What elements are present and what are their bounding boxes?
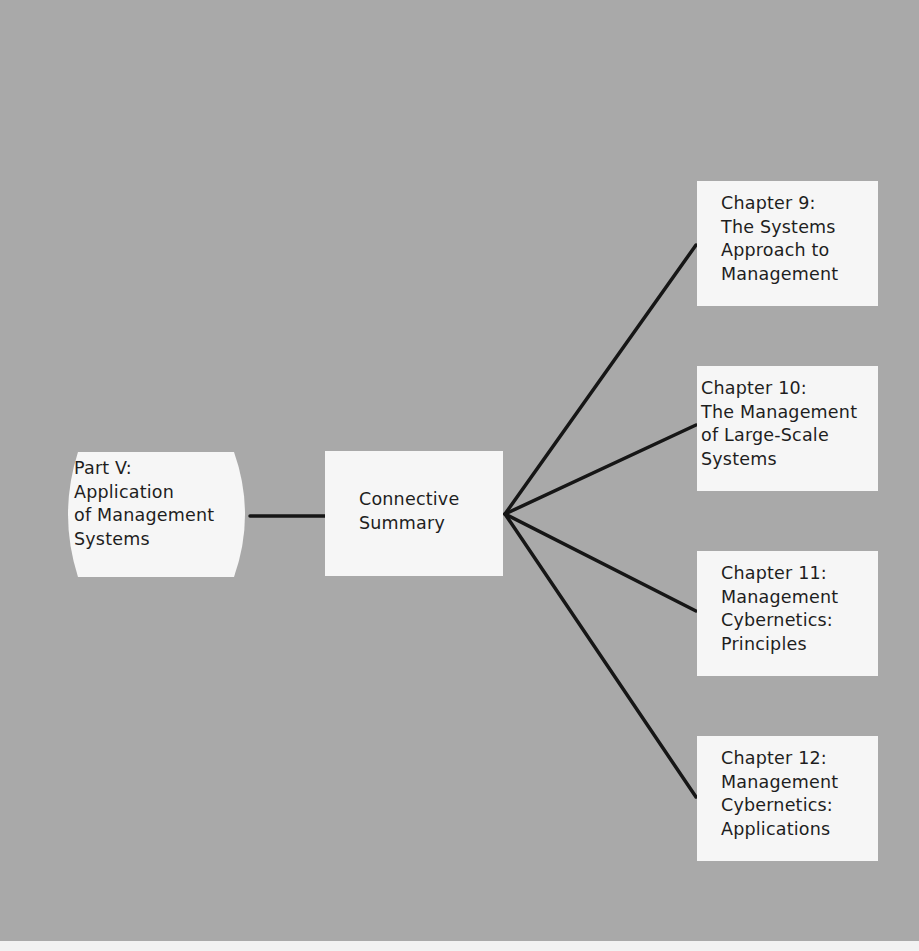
chapter-line: Cybernetics: xyxy=(721,794,878,818)
chapter-line: Management xyxy=(721,263,878,287)
chapter-line: of Large-Scale xyxy=(701,424,878,448)
chapter-line: Cybernetics: xyxy=(721,609,878,633)
chapter-line: Management xyxy=(721,586,878,610)
summary-line: Summary xyxy=(359,512,503,536)
chapter-12-node: Chapter 12: Management Cybernetics: Appl… xyxy=(697,736,878,861)
page-bottom-margin xyxy=(0,941,919,951)
chapter-line: Chapter 9: xyxy=(721,192,878,216)
chapter-line: The Management xyxy=(701,401,878,425)
part-v-line: Systems xyxy=(74,528,250,552)
summary-line: Connective xyxy=(359,488,503,512)
edge-summary-to-chapter-12 xyxy=(505,514,696,797)
chapter-9-node: Chapter 9: The Systems Approach to Manag… xyxy=(697,181,878,306)
chapter-line: Chapter 10: xyxy=(701,377,878,401)
chapter-line: Management xyxy=(721,771,878,795)
connective-summary-node: Connective Summary xyxy=(325,451,503,576)
part-v-line: of Management xyxy=(74,504,250,528)
chapter-line: Systems xyxy=(701,448,878,472)
chapter-10-node: Chapter 10: The Management of Large-Scal… xyxy=(697,366,878,491)
edge-summary-to-chapter-11 xyxy=(505,514,696,611)
chapter-line: Chapter 12: xyxy=(721,747,878,771)
chapter-line: Approach to xyxy=(721,239,878,263)
chapter-line: Principles xyxy=(721,633,878,657)
chapter-line: The Systems xyxy=(721,216,878,240)
part-v-node: Part V: Application of Management System… xyxy=(64,452,250,577)
part-v-line: Part V: xyxy=(74,457,250,481)
diagram-canvas: Part V: Application of Management System… xyxy=(0,0,919,941)
chapter-11-node: Chapter 11: Management Cybernetics: Prin… xyxy=(697,551,878,676)
edge-summary-to-chapter-9 xyxy=(505,245,696,514)
edge-summary-to-chapter-10 xyxy=(505,425,696,514)
chapter-line: Chapter 11: xyxy=(721,562,878,586)
part-v-line: Application xyxy=(74,481,250,505)
chapter-line: Applications xyxy=(721,818,878,842)
